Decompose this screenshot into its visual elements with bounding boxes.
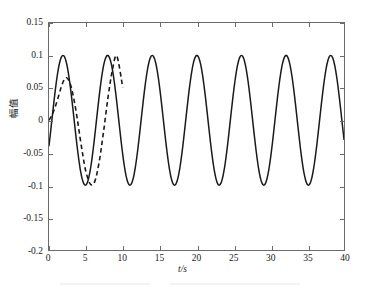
y-tick-mark (340, 56, 344, 57)
y-tick-mark (49, 56, 53, 57)
y-tick-mark (49, 88, 53, 89)
x-tick-mark (123, 23, 124, 27)
y-tick-mark (340, 23, 344, 24)
y-tick-mark (49, 187, 53, 188)
x-tick-mark (198, 246, 199, 250)
x-tick-mark (272, 246, 273, 250)
y-tick-label: 0.15 (0, 17, 43, 27)
x-tick-mark (235, 246, 236, 250)
y-tick-mark (49, 219, 53, 220)
y-tick-mark (340, 121, 344, 122)
series-group (49, 55, 344, 185)
series-solid-response (49, 55, 344, 185)
y-tick-mark (340, 187, 344, 188)
y-tick-mark (340, 88, 344, 89)
x-tick-mark (198, 23, 199, 27)
x-tick-mark (49, 246, 50, 250)
x-tick-mark (86, 23, 87, 27)
scan-artifact (170, 283, 300, 285)
x-tick-label: 30 (251, 253, 291, 264)
series-dashed-response (49, 56, 123, 185)
y-tick-label: 0.05 (0, 82, 43, 92)
y-tick-label: -0.1 (0, 181, 43, 191)
x-tick-label: 15 (139, 253, 179, 264)
x-tick-mark (309, 246, 310, 250)
y-tick-label: -0.05 (0, 148, 43, 158)
x-tick-mark (123, 246, 124, 250)
x-axis-title: t/s (0, 264, 365, 274)
x-tick-mark (160, 246, 161, 250)
y-tick-mark (340, 219, 344, 220)
y-tick-mark (49, 121, 53, 122)
y-tick-label: 0.1 (0, 50, 43, 60)
figure-canvas: 0510152025303540 0.150.10.050-0.05-0.1-0… (0, 0, 365, 293)
x-tick-mark (272, 23, 273, 27)
y-tick-label: -0.15 (0, 213, 43, 223)
x-tick-label: 20 (177, 253, 217, 264)
y-tick-label: -0.2 (0, 246, 43, 256)
x-tick-label: 35 (288, 253, 328, 264)
y-tick-mark (340, 154, 344, 155)
x-tick-label: 10 (102, 253, 142, 264)
scan-artifact (60, 283, 150, 285)
chart-svg (49, 23, 344, 250)
y-axis-title: 幅值 (6, 97, 20, 118)
x-tick-mark (309, 23, 310, 27)
x-tick-mark (86, 246, 87, 250)
y-tick-mark (49, 154, 53, 155)
x-tick-label: 40 (325, 253, 365, 264)
x-tick-label: 5 (65, 253, 105, 264)
x-tick-mark (160, 23, 161, 27)
x-tick-mark (235, 23, 236, 27)
y-tick-mark (49, 23, 53, 24)
plot-area (48, 22, 345, 251)
x-tick-label: 25 (214, 253, 254, 264)
